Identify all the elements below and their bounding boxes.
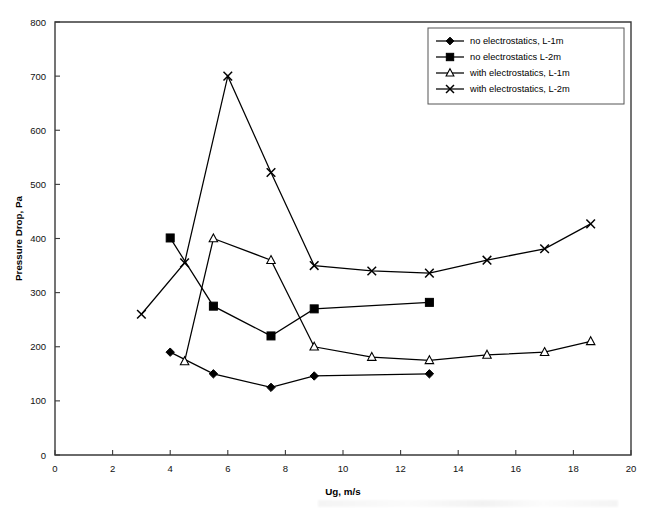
data-point-open-triangle <box>586 337 594 345</box>
scan-artifact <box>318 500 618 507</box>
x-tick-label: 4 <box>168 463 173 474</box>
data-point-cross <box>137 310 146 319</box>
x-tick-label: 2 <box>110 463 115 474</box>
x-axis-title: Ug, m/s <box>325 486 361 497</box>
y-tick-label: 0 <box>41 450 46 461</box>
data-point-filled-square <box>310 305 318 313</box>
data-point-filled-diamond <box>310 372 318 380</box>
data-point-filled-square <box>446 53 453 60</box>
data-point-filled-square <box>267 332 275 340</box>
data-point-cross <box>267 168 276 177</box>
data-series <box>137 72 595 392</box>
x-tick-label: 14 <box>453 463 464 474</box>
data-point-open-triangle <box>209 234 217 242</box>
data-point-cross <box>586 220 595 229</box>
data-point-open-triangle <box>310 342 318 350</box>
x-tick-label: 16 <box>511 463 522 474</box>
legend-label: with electrostatics, L-1m <box>469 68 570 78</box>
data-point-filled-diamond <box>425 370 433 378</box>
series-2 <box>180 234 595 365</box>
data-point-filled-square <box>166 234 174 242</box>
y-tick-label: 400 <box>30 233 46 244</box>
series-0 <box>166 348 434 392</box>
y-tick-label: 200 <box>30 341 46 352</box>
series-line <box>170 238 429 336</box>
x-tick-label: 18 <box>568 463 579 474</box>
data-point-filled-square <box>425 298 433 306</box>
chart-canvas: 0246810121416182001002003004005006007008… <box>0 0 651 512</box>
y-tick-label: 800 <box>30 17 46 28</box>
data-point-filled-diamond <box>166 348 174 356</box>
y-tick-label: 500 <box>30 179 46 190</box>
pressure-drop-chart: 0246810121416182001002003004005006007008… <box>0 0 651 512</box>
x-tick-label: 0 <box>52 463 57 474</box>
series-line <box>185 239 591 362</box>
legend-label: no electrostatics, L-1m <box>470 36 564 46</box>
x-tick-label: 10 <box>338 463 349 474</box>
y-tick-label: 300 <box>30 287 46 298</box>
data-point-filled-diamond <box>267 383 275 391</box>
legend-label: with electrostatics, L-2m <box>469 84 570 94</box>
series-line <box>170 352 429 387</box>
y-tick-label: 600 <box>30 125 46 136</box>
axis-titles: Ug, m/sPressure Drop, Pa <box>13 195 361 497</box>
y-tick-label: 700 <box>30 71 46 82</box>
legend-label: no electrostatics L-2m <box>470 52 561 62</box>
chart-legend: no electrostatics, L-1mno electrostatics… <box>428 28 624 104</box>
series-line <box>141 76 590 314</box>
y-tick-label: 100 <box>30 395 46 406</box>
data-point-cross <box>224 72 233 81</box>
data-point-filled-square <box>209 302 217 310</box>
y-axis-title: Pressure Drop, Pa <box>13 195 24 280</box>
x-tick-label: 6 <box>225 463 230 474</box>
data-point-filled-diamond <box>209 370 217 378</box>
x-tick-label: 12 <box>395 463 406 474</box>
series-1 <box>166 234 433 340</box>
x-tick-label: 8 <box>283 463 288 474</box>
series-3 <box>137 72 595 319</box>
x-tick-label: 20 <box>626 463 637 474</box>
